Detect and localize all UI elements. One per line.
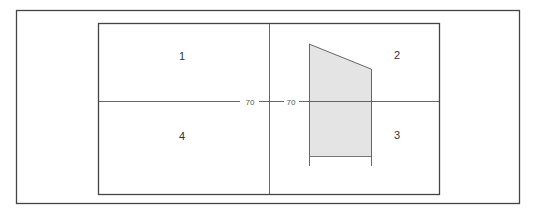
- shaded-region: [309, 44, 371, 156]
- outer-frame: [17, 11, 520, 204]
- quadrant-label-2: 2: [394, 49, 400, 61]
- axis-label-right: 70: [287, 98, 296, 107]
- quadrant-diagram: 70 70 1 2 3 4: [0, 0, 536, 219]
- quadrant-label-1: 1: [179, 50, 185, 62]
- axis-label-left: 70: [246, 98, 255, 107]
- quadrant-label-3: 3: [394, 129, 400, 141]
- inner-frame: [99, 24, 440, 195]
- quadrant-label-4: 4: [179, 130, 185, 142]
